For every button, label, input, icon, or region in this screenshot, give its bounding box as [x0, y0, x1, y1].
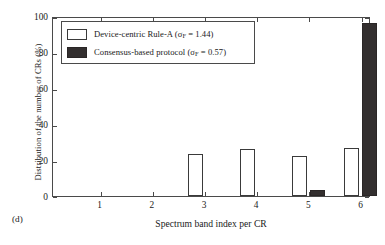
legend-label-device-centric: Device-centric Rule-A (σF = 1.44) [94, 29, 213, 39]
plot-inner: Device-centric Rule-A (σF = 1.44) Consen… [53, 18, 369, 196]
y-tick-label: 40 [26, 121, 48, 130]
bar-open-band-6 [344, 148, 359, 196]
y-tick-mark [53, 126, 57, 127]
y-tick-mark [53, 197, 57, 198]
x-tick-mark [257, 192, 258, 196]
bar-open-band-4 [240, 149, 255, 196]
y-tick-label: 0 [26, 193, 48, 202]
y-tick-mark [53, 18, 57, 19]
y-tick-mark [53, 90, 57, 91]
legend-swatch-filled-square-icon [67, 47, 87, 58]
legend-item-consensus: Consensus-based protocol (σF = 0.57) [67, 43, 249, 61]
x-tick-label: 6 [349, 200, 373, 210]
y-tick-mark [53, 54, 57, 55]
panel-subfigure-label: (d) [12, 214, 23, 224]
x-tick-mark [205, 192, 206, 196]
y-tick-mark-right [365, 18, 369, 19]
y-tick-label: 20 [26, 157, 48, 166]
x-axis-label: Spectrum band index per CR [52, 218, 370, 229]
x-tick-mark-top [309, 18, 310, 22]
x-tick-label: 5 [296, 200, 320, 210]
x-tick-mark-top [362, 18, 363, 22]
y-tick-mark [53, 162, 57, 163]
x-tick-labels: 1 2 3 4 5 6 [52, 200, 370, 216]
bar-open-band-5 [292, 156, 307, 197]
legend: Device-centric Rule-A (σF = 1.44) Consen… [61, 21, 255, 64]
x-tick-label: 2 [140, 200, 164, 210]
plot-area: Device-centric Rule-A (σF = 1.44) Consen… [52, 17, 370, 197]
x-tick-mark-top [257, 18, 258, 22]
y-tick-label: 60 [26, 85, 48, 94]
x-tick-mark [101, 192, 102, 196]
legend-label-consensus: Consensus-based protocol (σF = 0.57) [94, 47, 226, 57]
x-tick-label: 1 [88, 200, 112, 210]
x-tick-label: 4 [244, 200, 268, 210]
x-tick-label: 3 [192, 200, 216, 210]
y-tick-mark-right [365, 197, 369, 198]
bar-filled-band-6 [362, 23, 377, 196]
y-tick-labels: 100 80 60 40 20 0 [22, 0, 48, 245]
y-tick-label: 100 [26, 13, 48, 22]
figure-panel-d: Distribution of the number of CRs (%) 10… [0, 0, 385, 245]
x-tick-mark [153, 192, 154, 196]
bar-open-band-3 [188, 154, 203, 196]
legend-item-device-centric: Device-centric Rule-A (σF = 1.44) [67, 25, 249, 43]
y-tick-label: 80 [26, 49, 48, 58]
legend-swatch-open-square-icon [67, 29, 87, 40]
bar-filled-band-5 [310, 190, 325, 196]
